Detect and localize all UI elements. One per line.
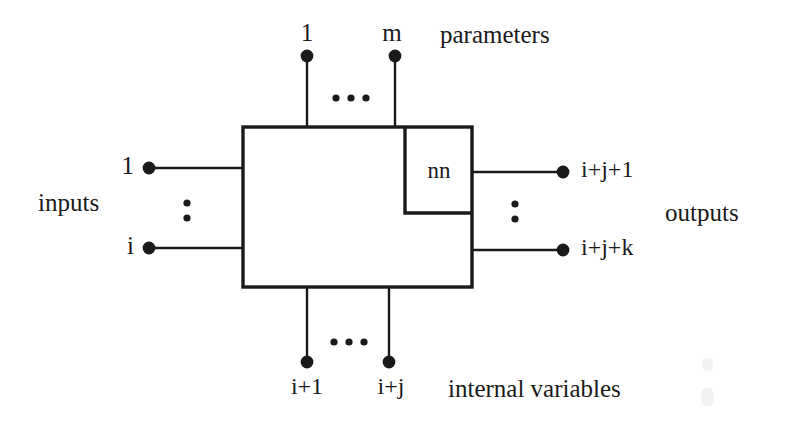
outputs-group-label: outputs [665,200,739,225]
internal-ellipsis-dot [345,338,352,345]
internal-dot-ipj [383,356,396,369]
figure-canvas: 1 m parameters 1 i inputs i+j+1 i+j+k ou… [0,0,785,425]
internal-ellipsis-dot [360,338,367,345]
parameters-group-label: parameters [440,22,550,47]
input-dot-i [143,242,156,255]
nn-block-label: nn [428,159,451,182]
system-block-outline [243,127,472,287]
parameters-ellipsis-dot [347,94,354,101]
parameters-ellipsis-dot [332,94,339,101]
inputs-group-label: inputs [38,190,99,215]
parameters-ellipsis-dot [362,94,369,101]
scan-smudge [701,388,714,406]
parameter-port-label-1: 1 [301,20,314,45]
internal-ellipsis-dot [330,338,337,345]
outputs-ellipsis-dot [511,215,518,222]
input-port-label-1: 1 [122,153,135,178]
internal-dot-ip1 [301,356,314,369]
inputs-ellipsis-dot [183,199,190,206]
input-dot-1 [143,162,156,175]
output-port-label-ijpk: i+j+k [581,235,633,259]
input-port-label-i: i [127,233,134,258]
internal-variables-group-label: internal variables [448,376,621,401]
scan-smudge [702,358,713,371]
output-port-label-ijp1: i+j+1 [581,157,633,181]
internal-port-label-ip1: i+1 [291,374,323,398]
output-dot-ijp1 [557,166,570,179]
output-dot-ijpk [557,244,570,257]
parameter-port-label-m: m [382,20,401,45]
internal-port-label-ipj: i+j [378,374,405,398]
parameter-dot-m [389,50,402,63]
outputs-ellipsis-dot [511,200,518,207]
inputs-ellipsis-dot [183,214,190,221]
parameter-dot-1 [301,50,314,63]
